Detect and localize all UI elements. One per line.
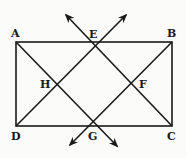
point-label-g: G bbox=[88, 130, 97, 143]
geometry-diagram: A B C D E F G H bbox=[0, 0, 186, 158]
point-label-a: A bbox=[10, 27, 20, 40]
point-label-c: C bbox=[167, 130, 176, 143]
line-a-g-ray bbox=[16, 42, 117, 146]
point-label-f: F bbox=[139, 78, 147, 91]
line-b-g-ray bbox=[70, 42, 172, 145]
point-label-e: E bbox=[89, 28, 97, 41]
point-label-d: D bbox=[11, 130, 21, 143]
point-label-b: B bbox=[167, 27, 176, 40]
point-label-h: H bbox=[40, 78, 50, 91]
line-d-e-ray bbox=[16, 15, 126, 126]
